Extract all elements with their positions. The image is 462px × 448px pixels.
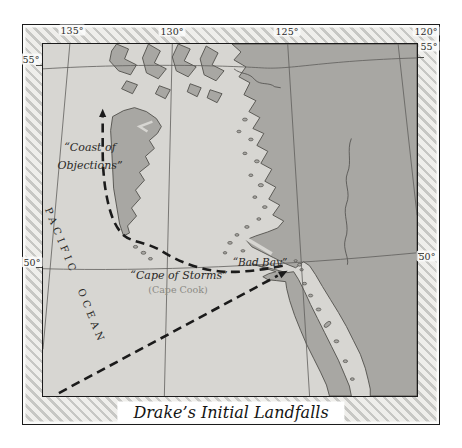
label-cape-cook: (Cape Cook) [148, 284, 208, 295]
right-axis-label-55: 55° [419, 41, 440, 52]
top-axis-label-125: 125° [274, 26, 301, 37]
top-axis-label-130: 130° [159, 26, 186, 37]
parallel-tick-right-50 [418, 253, 424, 254]
map-area: “Coast of Objections” “Cape of Storms” (… [42, 43, 418, 397]
label-coast-of-objections: “Coast of Objections” [57, 139, 122, 175]
label-cape-of-storms: “Cape of Storms” [130, 267, 227, 285]
label-bad-bay: “Bad Bay” [233, 256, 288, 268]
left-axis-label-55: 55° [21, 54, 42, 65]
label-coast-line1: “Coast of [57, 139, 122, 157]
map-figure: “Coast of Objections” “Cape of Storms” (… [0, 0, 462, 448]
top-axis-label-135: 135° [59, 25, 86, 36]
parallel-tick-left-55 [36, 65, 42, 66]
parallel-tick-right-55 [418, 57, 424, 58]
top-axis-label-120: 120° [413, 26, 440, 37]
left-axis-label-50: 50° [22, 257, 43, 268]
parallel-tick-left-50 [36, 267, 42, 268]
label-coast-line2: Objections” [57, 157, 122, 175]
map-title: Drake’s Initial Landfalls [117, 402, 344, 423]
